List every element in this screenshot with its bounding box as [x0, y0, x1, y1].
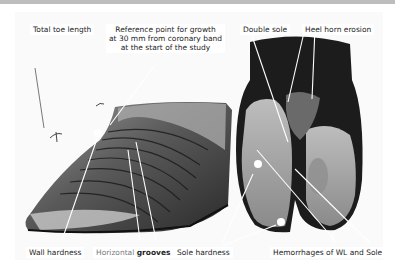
- label-double-sole: Double sole: [240, 24, 290, 35]
- label-heel-horn-erosion: Heel horn erosion: [302, 24, 374, 35]
- label-reference-point-line1: Reference point for growth: [109, 25, 222, 34]
- label-sole-hardness: Sole hardness: [174, 247, 233, 258]
- left-hoof-side-view: [25, 102, 232, 233]
- label-total-toe-length: Total toe length: [30, 24, 94, 35]
- label-horizontal-grooves: Horizontal grooves: [93, 247, 174, 258]
- label-reference-point-line3: at the start of the study: [109, 43, 222, 52]
- right-hoof-solar-view: [236, 36, 363, 232]
- leader-lines: [35, 68, 44, 128]
- label-horizontal: Horizontal: [96, 248, 134, 257]
- label-reference-point: Reference point for growth at 30 mm from…: [106, 24, 225, 53]
- label-reference-point-line2: at 30 mm from coronary band: [109, 34, 222, 43]
- label-hemorrhages: Hemorrhages of WL and Sole: [270, 247, 385, 258]
- label-grooves: grooves: [137, 248, 171, 257]
- label-wall-hardness: Wall hardness: [26, 247, 84, 258]
